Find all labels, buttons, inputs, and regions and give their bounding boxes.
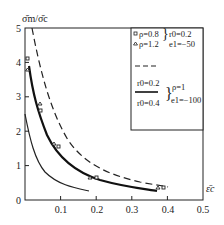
legend-brace-1: } — [162, 26, 169, 41]
svg-text:0.4: 0.4 — [162, 204, 175, 215]
svg-text:4: 4 — [16, 57, 21, 68]
svg-text:0.5: 0.5 — [197, 204, 210, 215]
svg-text:r0=0.4: r0=0.4 — [137, 98, 160, 108]
y-tick-labels: 0 1 2 3 4 5 — [16, 23, 21, 206]
svg-text:e1=−100: e1=−100 — [171, 95, 201, 105]
svg-text:0.3: 0.3 — [126, 204, 139, 215]
svg-text:e1=−50: e1=−50 — [169, 39, 195, 49]
chart: 0 1 2 3 4 5 0.1 0.2 0.3 0.4 0.5 σ̄m/σ̄c … — [0, 0, 224, 225]
svg-text:1: 1 — [16, 160, 21, 171]
x-axis-label: ε̄c — [206, 183, 215, 194]
svg-text:5: 5 — [16, 23, 21, 34]
svg-text:0.1: 0.1 — [55, 204, 68, 215]
svg-text:ρ=1.2: ρ=1.2 — [139, 39, 159, 49]
y-axis-label: σ̄m/σ̄c — [22, 13, 48, 24]
svg-text:0.2: 0.2 — [91, 204, 104, 215]
svg-text:0: 0 — [16, 195, 21, 206]
svg-text:r0=0.2: r0=0.2 — [169, 29, 192, 39]
svg-text:ρ=0.8: ρ=0.8 — [139, 29, 159, 39]
x-axis — [61, 196, 168, 200]
svg-text:2: 2 — [16, 126, 21, 137]
svg-text:r0=0.2: r0=0.2 — [137, 78, 160, 88]
svg-text:ρ=1: ρ=1 — [172, 82, 185, 92]
svg-text:3: 3 — [16, 91, 21, 102]
x-tick-labels: 0.1 0.2 0.3 0.4 0.5 — [55, 204, 210, 215]
